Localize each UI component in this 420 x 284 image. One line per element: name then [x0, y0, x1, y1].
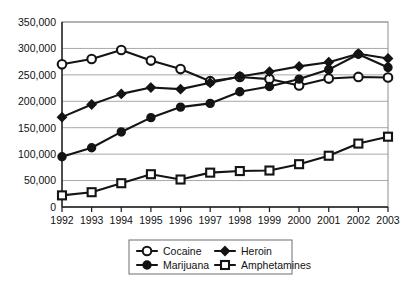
y-axis-tick-label: 250,000 — [18, 69, 56, 81]
data-point-marker — [206, 169, 214, 177]
data-point-marker — [147, 170, 155, 178]
data-point-marker — [87, 55, 96, 64]
x-axis-tick-label: 1999 — [258, 214, 282, 226]
data-point-marker — [384, 73, 393, 82]
data-point-marker — [143, 247, 152, 256]
x-axis-tick-label: 1995 — [139, 214, 163, 226]
data-point-marker — [88, 144, 96, 152]
data-point-marker — [58, 60, 67, 69]
data-point-marker — [354, 50, 362, 58]
y-axis-tick-label: 150,000 — [18, 122, 56, 134]
data-point-marker — [147, 114, 155, 122]
data-point-marker — [58, 191, 66, 199]
data-point-marker — [265, 167, 273, 175]
data-point-marker — [221, 261, 229, 269]
data-point-marker — [295, 75, 303, 83]
legend-item-cocaine[interactable]: Cocaine — [137, 245, 202, 257]
legend-label: Heroin — [241, 245, 272, 257]
legend-item-marijuana[interactable]: Marijuana — [137, 259, 209, 271]
chart-canvas: 050,000100,000150,000200,000250,000300,0… — [0, 0, 420, 284]
data-point-marker — [177, 176, 185, 184]
y-axis-tick-label: 350,000 — [18, 16, 56, 28]
data-point-marker — [324, 74, 333, 83]
data-point-marker — [354, 140, 362, 148]
data-point-marker — [354, 73, 363, 82]
data-point-marker — [384, 64, 392, 72]
data-point-marker — [236, 167, 244, 175]
data-point-marker — [325, 66, 333, 74]
y-axis-tick-label: 100,000 — [18, 148, 56, 160]
data-point-marker — [325, 152, 333, 160]
data-point-marker — [266, 83, 274, 91]
data-point-marker — [147, 56, 156, 65]
x-axis-tick-label: 1998 — [228, 214, 252, 226]
data-point-marker — [176, 65, 185, 74]
x-axis-tick-label: 1996 — [169, 214, 193, 226]
x-axis-tick-label: 1997 — [199, 214, 223, 226]
x-axis-tick-label: 2003 — [376, 214, 400, 226]
y-axis-tick-label: 200,000 — [18, 95, 56, 107]
data-point-marker — [384, 133, 392, 141]
y-axis-tick-label: 300,000 — [18, 42, 56, 54]
x-axis-tick-label: 1993 — [80, 214, 104, 226]
data-point-marker — [177, 103, 185, 111]
data-point-marker — [117, 179, 125, 187]
data-point-marker — [206, 100, 214, 108]
legend-item-amphetamines[interactable]: Amphetamines — [215, 259, 311, 271]
y-axis-tick-label: 50,000 — [24, 174, 56, 186]
data-point-marker — [88, 188, 96, 196]
data-point-marker — [143, 261, 151, 269]
x-axis-tick-label: 2001 — [317, 214, 341, 226]
data-point-marker — [117, 128, 125, 136]
data-point-marker — [236, 88, 244, 96]
chart-legend: CocaineHeroinMarijuanaAmphetamines — [129, 240, 311, 274]
legend-label: Cocaine — [163, 245, 202, 257]
line-chart: 050,000100,000150,000200,000250,000300,0… — [0, 0, 420, 284]
data-point-marker — [295, 160, 303, 168]
legend-label: Marijuana — [163, 259, 209, 271]
y-axis-tick-label: 0 — [50, 201, 56, 213]
x-axis-tick-label: 1992 — [50, 214, 74, 226]
data-point-marker — [117, 46, 126, 55]
x-axis-tick-label: 1994 — [110, 214, 134, 226]
data-point-marker — [58, 153, 66, 161]
legend-label: Amphetamines — [241, 259, 311, 271]
x-axis-tick-label: 2002 — [347, 214, 371, 226]
x-axis-tick-label: 2000 — [287, 214, 311, 226]
